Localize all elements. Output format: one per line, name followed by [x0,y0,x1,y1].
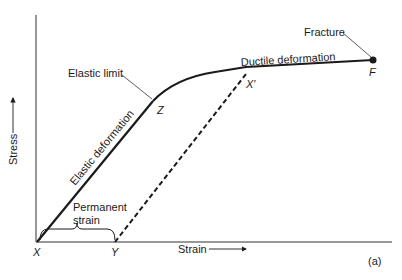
permanent-strain-label-line2: strain [73,214,100,226]
point-f-label: F [369,66,377,78]
fracture-label: Fracture [304,26,345,38]
stress-strain-diagram: Stress Strain Elastic limit Fracture Duc… [0,0,402,280]
elastic-limit-leader [122,75,152,99]
point-y-label: Y [111,246,119,258]
point-x-prime-label: X′ [245,78,256,90]
elastic-limit-label: Elastic limit [68,67,123,79]
fracture-point [370,57,377,64]
panel-label: (a) [368,255,381,267]
y-axis-label: Stress [7,133,19,165]
unloading-dashed-line [115,74,246,242]
point-x-label: X [32,246,41,258]
x-axis-label: Strain [178,243,207,255]
elastic-deformation-label: Elastic deformation [67,107,136,187]
permanent-strain-label-line1: Permanent [73,201,127,213]
fracture-leader [343,33,371,57]
point-z-label: Z [156,104,165,116]
